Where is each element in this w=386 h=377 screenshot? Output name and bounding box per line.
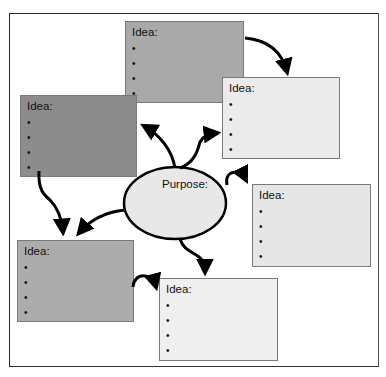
idea-bullet-list (24, 260, 127, 320)
idea-label: Idea: (166, 282, 271, 296)
idea-bullet (166, 313, 271, 328)
idea-box-upper-right: Idea: (222, 77, 340, 159)
idea-box-bottom-center: Idea: (159, 278, 278, 361)
idea-bullet (24, 260, 127, 275)
idea-bullet (229, 97, 333, 112)
idea-bullet (132, 41, 237, 56)
idea-bullet-list (166, 298, 271, 358)
idea-bullet (166, 298, 271, 313)
idea-label: Idea: (259, 188, 364, 202)
idea-bullet (24, 290, 127, 305)
idea-bullet (259, 204, 364, 219)
idea-bullet (229, 127, 333, 142)
idea-bullet (27, 160, 130, 175)
idea-bullet (166, 343, 271, 358)
idea-bullet (259, 219, 364, 234)
idea-bullet (229, 112, 333, 127)
idea-bullet (132, 56, 237, 71)
idea-bullet (27, 115, 130, 130)
purpose-label: Purpose: (162, 178, 208, 190)
idea-label: Idea: (132, 25, 237, 39)
idea-box-left-dark: Idea: (20, 95, 137, 177)
idea-box-right-middle: Idea: (252, 184, 371, 267)
idea-label: Idea: (24, 244, 127, 258)
idea-bullet (24, 275, 127, 290)
idea-label: Idea: (229, 81, 333, 95)
idea-bullet (259, 249, 364, 264)
idea-bullet (24, 305, 127, 320)
idea-bullet (229, 142, 333, 157)
idea-box-bottom-left: Idea: (17, 240, 134, 322)
idea-bullet-list (27, 115, 130, 175)
idea-bullet-list (229, 97, 333, 157)
idea-label: Idea: (27, 99, 130, 113)
idea-bullet (259, 234, 364, 249)
idea-bullet (27, 130, 130, 145)
idea-bullet (166, 328, 271, 343)
idea-bullet-list (259, 204, 364, 264)
idea-bullet (27, 145, 130, 160)
